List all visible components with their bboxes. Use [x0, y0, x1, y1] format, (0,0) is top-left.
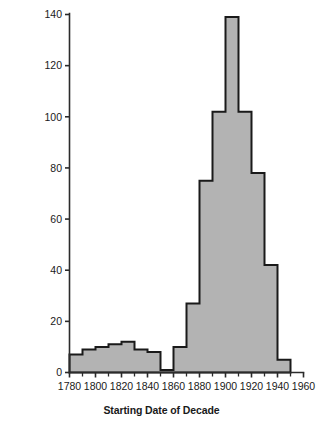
x-tick-label: 1860	[162, 380, 186, 392]
x-tick-label: 1800	[84, 380, 108, 392]
x-tick-label: 1940	[266, 380, 290, 392]
y-tick-label: 40	[50, 264, 62, 276]
x-tick-label: 1920	[240, 380, 264, 392]
y-tick-label: 120	[44, 59, 62, 71]
y-tick-label: 100	[44, 111, 62, 123]
histogram-plot: 0204060801001201401780180018201840186018…	[0, 0, 323, 426]
x-axis-title: Starting Date of Decade	[0, 404, 323, 416]
x-tick-label: 1900	[214, 380, 238, 392]
x-tick-label: 1780	[58, 380, 82, 392]
x-axis-title-text: Starting Date of Decade	[103, 404, 219, 416]
x-tick-label: 1960	[292, 380, 316, 392]
y-tick-label: 80	[50, 162, 62, 174]
x-tick-label: 1840	[136, 380, 160, 392]
x-tick-label: 1820	[110, 380, 134, 392]
histogram-bars	[70, 17, 291, 372]
y-tick-label: 20	[50, 315, 62, 327]
y-tick-label: 140	[44, 8, 62, 20]
y-tick-label: 60	[50, 213, 62, 225]
chart-figure: Number of European Provinces with Fertil…	[0, 0, 323, 426]
y-tick-label: 0	[56, 366, 62, 378]
x-tick-label: 1880	[188, 380, 212, 392]
